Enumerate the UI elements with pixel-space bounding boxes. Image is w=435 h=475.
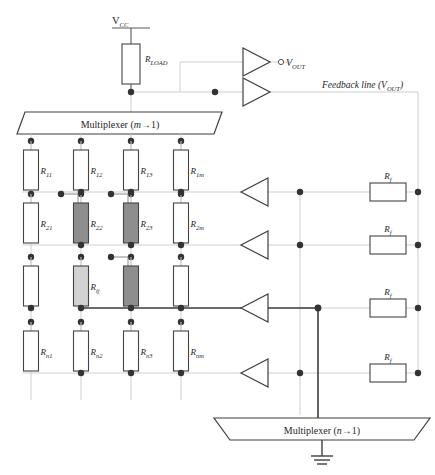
- resistor-label: Rn2: [90, 347, 104, 359]
- feedback-bus-node: [415, 242, 421, 248]
- row-bus-node: [78, 370, 84, 376]
- matrix-cell[interactable]: Rn2: [74, 319, 104, 371]
- amp-bus-node-2: [297, 242, 303, 248]
- feedback-resistor-body[interactable]: [370, 183, 406, 201]
- resistor-body[interactable]: [24, 150, 39, 190]
- feedback-bus-node: [415, 305, 421, 311]
- matrix-cell[interactable]: Rn1: [24, 319, 53, 371]
- selected-signal-path: [81, 308, 318, 418]
- feedback-bus-node: [415, 370, 421, 376]
- feedback-resistor-bank: RfRfRfRf: [370, 171, 421, 382]
- resistor-label: R22: [90, 219, 104, 231]
- vout-terminal-icon: [278, 59, 283, 64]
- amp-row-4[interactable]: [241, 359, 268, 387]
- resistor-label: Rnm: [190, 347, 205, 359]
- amp-row-2[interactable]: [241, 231, 268, 259]
- multiplexer-top-label: Multiplexer (m→1): [81, 119, 160, 131]
- resistor-label: Rij: [90, 282, 100, 294]
- feedback-resistor-body[interactable]: [370, 364, 406, 382]
- resistor-label: R23: [140, 219, 154, 231]
- feedback-resistor[interactable]: Rf: [370, 171, 421, 201]
- resistor-body[interactable]: [174, 203, 189, 243]
- feedback-resistor-label: Rf: [383, 171, 393, 183]
- output-node-dot: [212, 89, 218, 95]
- row-bus-node: [78, 189, 84, 195]
- matrix-cell[interactable]: Rnm: [174, 319, 205, 371]
- mux-top-legs: [31, 134, 181, 150]
- matrix-cell[interactable]: R22: [58, 191, 103, 243]
- resistor-body[interactable]: [74, 331, 89, 371]
- row-bus-node: [128, 370, 134, 376]
- resistor-body[interactable]: [24, 331, 39, 371]
- resistor-body[interactable]: [124, 203, 139, 243]
- matrix-cell[interactable]: R13: [124, 138, 154, 190]
- resistor-body[interactable]: [74, 266, 89, 306]
- resistor-label: R11: [40, 166, 53, 178]
- matrix-cell[interactable]: [108, 254, 139, 306]
- resistor-body[interactable]: [24, 203, 39, 243]
- vout-label: VOUT: [286, 57, 305, 70]
- feedback-resistor[interactable]: Rf: [370, 287, 421, 317]
- resistor-label: R13: [140, 166, 154, 178]
- cell-tap-node: [108, 191, 114, 197]
- resistor-label: Rn1: [40, 347, 53, 359]
- amp-row-1[interactable]: [241, 178, 268, 206]
- load-resistor-label: RLOAD: [144, 54, 168, 66]
- row-bus-node: [28, 305, 34, 311]
- row-bus-node: [128, 189, 134, 195]
- selected-path-node: [315, 305, 322, 312]
- resistor-body[interactable]: [174, 266, 189, 306]
- feedback-resistor-body[interactable]: [370, 299, 406, 317]
- amp-bus-node-1: [297, 189, 303, 195]
- feedback-resistor-label: Rf: [383, 287, 393, 299]
- feedback-bus-node: [415, 189, 421, 195]
- matrix-cell[interactable]: R2m: [174, 191, 205, 243]
- cell-tap-node: [108, 254, 114, 260]
- resistor-body[interactable]: [124, 266, 139, 306]
- matrix-cell[interactable]: R21: [24, 191, 53, 243]
- resistor-label: Rn3: [140, 347, 154, 359]
- row-bus-node: [78, 242, 84, 248]
- feedback-resistor-label: Rf: [383, 352, 393, 364]
- circuit-diagram: VCC RLOAD VOUT Feedback line (VOUT) Mult…: [0, 0, 435, 475]
- amp-row-3[interactable]: [241, 294, 268, 322]
- ground-symbol: [311, 440, 333, 464]
- vcc-node-dot: [128, 89, 134, 95]
- feedback-resistor-label: Rf: [383, 224, 393, 236]
- resistor-body[interactable]: [124, 150, 139, 190]
- resistor-body[interactable]: [74, 203, 89, 243]
- cell-tap-node: [58, 191, 64, 197]
- matrix-cell[interactable]: R11: [24, 138, 53, 190]
- amp-bus-node-4: [297, 370, 303, 376]
- matrix-cell[interactable]: R12: [74, 138, 104, 190]
- matrix-cell[interactable]: R1m: [174, 138, 205, 190]
- row-bus-node: [178, 242, 184, 248]
- resistor-label: R1m: [190, 166, 205, 178]
- amp-output-top[interactable]: [243, 48, 270, 76]
- resistor-label: R21: [40, 219, 53, 231]
- resistor-body[interactable]: [174, 150, 189, 190]
- feedback-resistor[interactable]: Rf: [370, 224, 421, 254]
- resistor-body[interactable]: [124, 331, 139, 371]
- row-bus-node: [128, 242, 134, 248]
- feedback-line-label: Feedback line (VOUT): [321, 80, 403, 92]
- resistor-label: R12: [90, 166, 104, 178]
- row-bus-node: [178, 370, 184, 376]
- schematic-canvas: VCC RLOAD VOUT Feedback line (VOUT) Mult…: [0, 0, 435, 475]
- matrix-cell[interactable]: Rij: [74, 254, 100, 306]
- resistor-label: R2m: [190, 219, 205, 231]
- matrix-cell[interactable]: R23: [108, 191, 153, 243]
- feedback-resistor[interactable]: Rf: [370, 352, 421, 382]
- row-bus-node: [178, 189, 184, 195]
- matrix-cell[interactable]: Rn3: [124, 319, 154, 371]
- multiplexer-bottom-label: Multiplexer (n→1): [284, 425, 360, 437]
- matrix-cell[interactable]: [174, 254, 189, 306]
- matrix-cell[interactable]: [24, 254, 39, 306]
- amp-feedback[interactable]: [243, 78, 270, 106]
- resistor-body[interactable]: [24, 266, 39, 306]
- resistor-matrix: R11R12R13R1mR21R22R23R2mRijRn1Rn2Rn3Rnm: [24, 138, 205, 376]
- feedback-resistor-body[interactable]: [370, 236, 406, 254]
- resistor-body[interactable]: [74, 150, 89, 190]
- resistor-body[interactable]: [174, 331, 189, 371]
- vcc-label: VCC: [112, 15, 129, 28]
